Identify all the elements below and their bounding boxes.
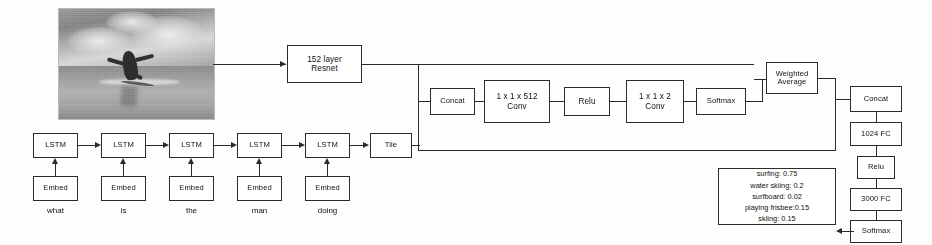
node-attention-relu: Relu <box>564 87 610 116</box>
arrowhead-embed2-up <box>120 158 126 164</box>
wire-wavg-to-concat2 <box>835 99 850 100</box>
wire-tile-to-right-column <box>418 150 835 151</box>
node-embed-5: Embed <box>305 176 350 201</box>
wire-embed1-to-lstm1 <box>55 163 56 176</box>
arrowhead-lstm5-right <box>363 142 369 148</box>
arrowhead-to-answers <box>836 228 842 234</box>
photo-grain-overlay <box>59 9 214 119</box>
wire-tile-up-to-concat2 <box>835 99 836 151</box>
node-attention-softmax: Softmax <box>696 88 746 115</box>
wire-relu-to-conv2 <box>610 101 626 102</box>
wire-wavg-right <box>818 78 836 79</box>
wire-softmax-right <box>746 101 763 102</box>
wire-concat2-to-fc1024 <box>876 112 877 122</box>
node-lstm-1: LSTM <box>33 133 78 158</box>
answer-item: skiing: 0.15 <box>758 213 795 224</box>
node-fc-1024: 1024 FC <box>850 122 902 146</box>
node-conv-1x1x512: 1 x 1 x 512 Conv <box>484 80 550 123</box>
node-tile: Tile <box>370 133 412 158</box>
wire-resnet-top-bus <box>362 64 754 65</box>
wire-softmax-up <box>762 79 763 102</box>
answer-item: playing frisbee:0.15 <box>745 202 809 213</box>
wire-conv512-to-relu <box>550 101 564 102</box>
node-resnet: 152 layer Resnet <box>287 45 362 83</box>
node-classifier-softmax: Softmax <box>850 220 902 243</box>
answer-item: water skiing: 0.2 <box>750 180 803 191</box>
answer-item: surfboard: 0.02 <box>752 191 802 202</box>
node-weighted-average: Weighted Average <box>766 62 818 94</box>
arrowhead-embed3-up <box>188 158 194 164</box>
node-conv-1x1x2: 1 x 1 x 2 Conv <box>626 80 684 123</box>
surfer-photo <box>58 8 215 120</box>
wire-fc3000-to-softmax2 <box>876 211 877 220</box>
node-attention-concat: Concat <box>430 88 475 115</box>
word-label-1: what <box>33 206 78 215</box>
node-embed-4: Embed <box>237 176 282 201</box>
wire-embed3-to-lstm3 <box>191 163 192 176</box>
node-lstm-2: LSTM <box>101 133 146 158</box>
node-lstm-5: LSTM <box>305 133 350 158</box>
answer-distribution-box: surfing: 0.75 water skiing: 0.2 surfboar… <box>718 168 836 225</box>
diagram-canvas: 152 layer Resnet Concat 1 x 1 x 512 Conv… <box>0 0 932 245</box>
word-label-5: doing <box>305 206 350 215</box>
arrowhead-photo-to-resnet <box>280 61 286 67</box>
word-label-3: the <box>169 206 214 215</box>
wire-embed2-to-lstm2 <box>123 163 124 176</box>
node-classifier-concat: Concat <box>850 86 902 112</box>
arrowhead-embed4-up <box>256 158 262 164</box>
wire-softmax2-to-answers <box>842 231 854 232</box>
wire-relu2-to-fc3000 <box>876 179 877 188</box>
wire-photo-to-resnet <box>213 64 286 65</box>
wire-embed5-to-lstm5 <box>327 163 328 176</box>
node-classifier-relu: Relu <box>857 156 895 179</box>
wire-conv2-to-softmax <box>684 101 696 102</box>
answer-item: surfing: 0.75 <box>757 168 798 179</box>
wire-fc1024-to-relu2 <box>876 146 877 156</box>
arrowhead-embed1-up <box>52 158 58 164</box>
node-fc-3000: 3000 FC <box>850 188 902 211</box>
wire-bus-to-concat <box>418 101 430 102</box>
wire-wavg-down <box>835 78 836 100</box>
word-label-4: man <box>237 206 282 215</box>
wire-concat-to-conv512 <box>475 101 484 102</box>
node-embed-3: Embed <box>169 176 214 201</box>
word-label-2: is <box>101 206 146 215</box>
arrowhead-embed5-up <box>324 158 330 164</box>
node-embed-1: Embed <box>33 176 78 201</box>
node-lstm-4: LSTM <box>237 133 282 158</box>
node-lstm-3: LSTM <box>169 133 214 158</box>
wire-embed4-to-lstm4 <box>259 163 260 176</box>
node-embed-2: Embed <box>101 176 146 201</box>
wire-tile-out <box>412 145 420 146</box>
wire-vertical-bus <box>418 64 419 151</box>
